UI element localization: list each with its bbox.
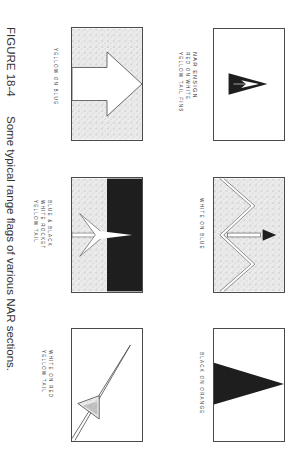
label-nar-ensign: NAR ENSIGN RED ON WHITE YELLOW TAIL FINS bbox=[177, 52, 198, 132]
flag-white-on-blue bbox=[213, 177, 285, 293]
label-line: BLACK ON ORANGE bbox=[198, 352, 205, 432]
label-line: WHITE ON BLUE bbox=[198, 198, 205, 268]
label-line: WHITE ROCKET bbox=[39, 200, 46, 275]
chevron-rocket-icon bbox=[214, 178, 284, 292]
label-line: YELLOW ON BLUE bbox=[52, 48, 59, 118]
diagonal-rocket-icon bbox=[72, 329, 142, 441]
label-line: YELLOW TAIL bbox=[40, 350, 47, 420]
flag-white-on-red bbox=[71, 328, 143, 442]
label-line: NAR ENSIGN bbox=[191, 52, 198, 132]
label-line: WHITE ON RED bbox=[47, 350, 54, 420]
flag-black-on-orange bbox=[213, 328, 285, 442]
arrow-icon bbox=[72, 28, 142, 140]
delta-rocket-icon bbox=[72, 178, 142, 292]
label-line: RED ON WHITE bbox=[184, 52, 191, 132]
flag-nar-ensign bbox=[213, 28, 285, 141]
flag-yellow-on-blue bbox=[71, 27, 143, 141]
label-yellow-on-blue: YELLOW ON BLUE bbox=[52, 48, 59, 118]
nar-pennant-icon bbox=[214, 29, 284, 140]
label-white-on-red: WHITE ON RED YELLOW TAIL bbox=[40, 350, 54, 420]
triangle-icon bbox=[214, 329, 284, 441]
figure-caption-text: Some typical range flags of various NAR … bbox=[5, 116, 17, 371]
label-white-on-blue: WHITE ON BLUE bbox=[198, 198, 205, 268]
label-blue-black: BLUE & BLACK WHITE ROCKET YELLOW TAIL bbox=[32, 200, 53, 275]
label-line: BLUE & BLACK bbox=[46, 200, 53, 275]
figure-caption: FIGURE 18-4 Some typical range flags of … bbox=[4, 27, 18, 371]
label-line: YELLOW TAIL bbox=[32, 200, 39, 275]
flag-blue-black bbox=[71, 177, 143, 293]
label-line: YELLOW TAIL FINS bbox=[177, 52, 184, 132]
label-black-on-orange: BLACK ON ORANGE bbox=[198, 352, 205, 432]
figure-label: FIGURE 18-4 bbox=[5, 27, 17, 97]
